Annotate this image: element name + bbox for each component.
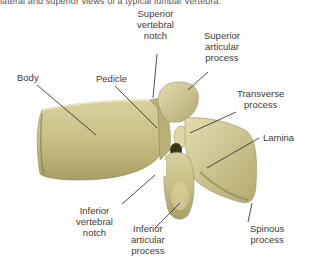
label-superior-articular-process: Superior articular process bbox=[204, 30, 240, 63]
label-transverse-process: Transverse process bbox=[237, 88, 284, 110]
label-lamina: Lamina bbox=[263, 132, 294, 143]
label-body: Body bbox=[17, 72, 39, 83]
label-superior-vertebral-notch: Superior vertebral notch bbox=[137, 8, 174, 41]
label-pedicle: Pedicle bbox=[96, 73, 127, 84]
label-inferior-articular-process: Inferior articular process bbox=[131, 223, 165, 256]
superior-articular-process-shape bbox=[158, 82, 198, 122]
label-inferior-vertebral-notch: Inferior vertebral notch bbox=[76, 205, 113, 238]
label-spinous-process: Spinous process bbox=[250, 223, 284, 245]
vertebral-body-shape bbox=[37, 100, 160, 180]
